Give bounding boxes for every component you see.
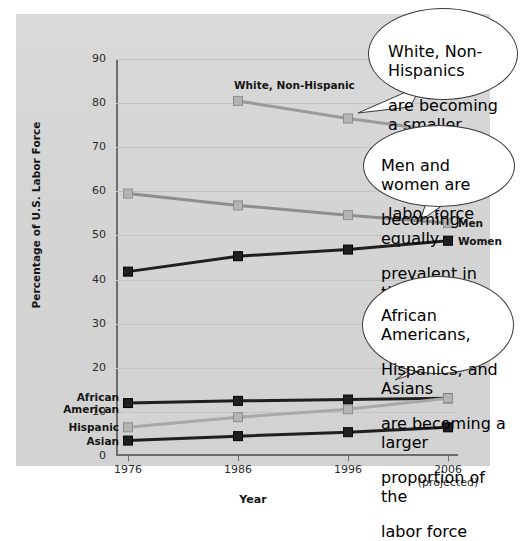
series-marker [234, 413, 243, 422]
y-axis-title: Percentage of U.S. Labor Force [30, 55, 42, 375]
y-tick-label: 70 [72, 140, 106, 153]
y-tick-label: 80 [72, 96, 106, 109]
series-marker [124, 436, 133, 445]
callout-gender-line-2: becoming equally [381, 210, 506, 248]
callout-minority-line-1: African Americans, [381, 306, 509, 344]
y-tick-label: 0 [72, 449, 106, 462]
series-marker [234, 396, 243, 405]
y-tick-label: 90 [72, 52, 106, 65]
x-tick-label: 1996 [303, 463, 393, 476]
series-marker [344, 245, 353, 254]
series-marker [234, 201, 243, 210]
x-tick [128, 454, 129, 461]
x-tick [348, 454, 349, 461]
callout-minority-line-2: Hispanics, and Asians [381, 360, 509, 398]
series-label-hispanic: Hispanic [68, 421, 119, 433]
x-tick-label: 1976 [83, 463, 173, 476]
callout-minority-line-5: labor force [381, 522, 509, 541]
callout-minority-text: African Americans, Hispanics, and Asians… [381, 290, 509, 541]
series-marker [344, 395, 353, 404]
series-label-african-american: AfricanAmerican [63, 391, 119, 415]
callout-gender-line-1: Men and women are [381, 156, 506, 194]
series-marker [344, 405, 353, 414]
series-label-white-non-hispanic: White, Non-Hispanic [234, 79, 355, 91]
y-tick-label: 60 [72, 184, 106, 197]
series-marker [124, 189, 133, 198]
callout-white-line-1: White, Non-Hispanics [388, 42, 510, 80]
series-label-asian: Asian [86, 435, 119, 447]
series-marker [234, 432, 243, 441]
y-tick-label: 40 [72, 273, 106, 286]
callout-minority-line-4: proportion of the [381, 468, 509, 506]
y-tick-label: 30 [72, 317, 106, 330]
series-marker [234, 252, 243, 261]
series-marker [234, 96, 243, 105]
series-marker [124, 267, 133, 276]
x-tick-label: 1986 [193, 463, 283, 476]
series-marker [344, 211, 353, 220]
series-marker [344, 428, 353, 437]
series-marker [124, 423, 133, 432]
y-tick-label: 50 [72, 228, 106, 241]
callout-minority-line-3: are becoming a larger [381, 414, 509, 452]
y-tick-label: 20 [72, 361, 106, 374]
series-marker [124, 399, 133, 408]
x-tick [238, 454, 239, 461]
